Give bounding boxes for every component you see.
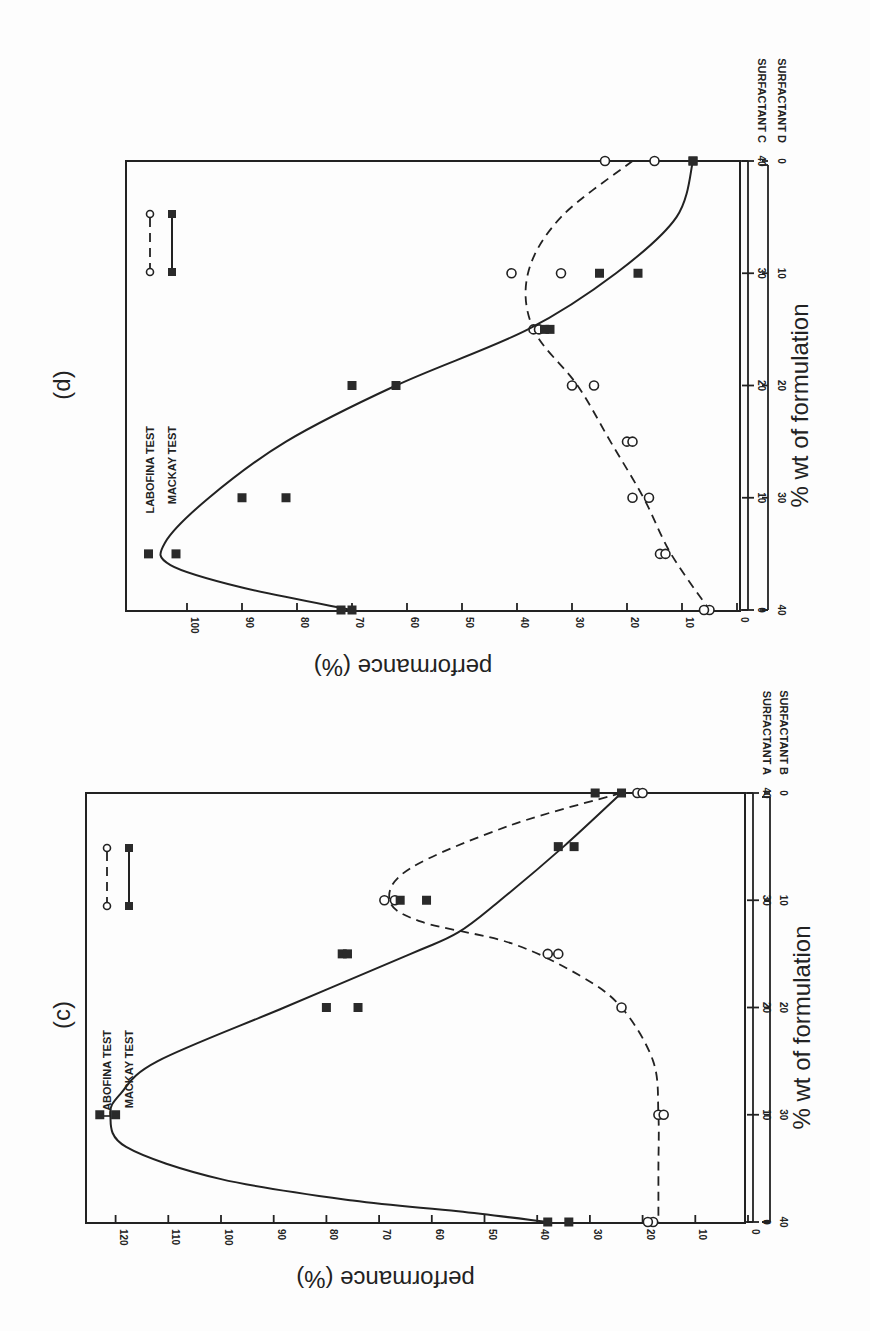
performance-tick-label: 10 xyxy=(684,617,695,629)
mackay-point xyxy=(595,269,604,278)
secondary-tick-label: 0 xyxy=(778,790,789,796)
mackay-point xyxy=(238,493,247,502)
labofina-point xyxy=(659,1110,668,1119)
open-circle-icon xyxy=(147,211,154,218)
primary-tick-label: 20 xyxy=(761,1002,772,1014)
performance-tick-label: 110 xyxy=(170,1229,181,1246)
mackay-point xyxy=(396,896,405,905)
performance-tick-label: 50 xyxy=(464,617,475,629)
primary-tick-label: 30 xyxy=(756,268,767,280)
mackay-point xyxy=(554,842,563,851)
performance-tick-label: 100 xyxy=(189,617,200,634)
filled-square-icon xyxy=(168,210,176,218)
panel-label: (c) xyxy=(48,1001,75,1029)
mackay-point xyxy=(634,269,643,278)
mackay-point xyxy=(282,493,291,502)
performance-tick-label: 70 xyxy=(354,617,365,629)
figure-page: 0102030405060708090100040103020203010400… xyxy=(0,0,870,1331)
filled-square-icon xyxy=(125,844,133,852)
labofina-point xyxy=(601,157,610,166)
figure-canvas: 0102030405060708090100040103020203010400… xyxy=(0,0,870,1331)
labofina-point xyxy=(380,896,389,905)
mackay-point xyxy=(392,381,401,390)
legend: LABOFINA TESTMACKAY TEST xyxy=(144,210,178,514)
mackay-point xyxy=(111,1110,120,1119)
filled-square-icon xyxy=(168,268,176,276)
labofina-point xyxy=(638,789,647,798)
mackay-curve xyxy=(160,161,693,610)
mackay-point xyxy=(570,842,579,851)
performance-tick-label: 80 xyxy=(328,1229,339,1241)
performance-tick-label: 60 xyxy=(434,1229,445,1241)
legend-label: MACKAY TEST xyxy=(166,426,178,505)
secondary-tick-label: 40 xyxy=(776,604,787,616)
performance-tick-label: 100 xyxy=(223,1229,234,1246)
legend-label: LABOFINA TEST xyxy=(144,426,156,514)
filled-square-icon xyxy=(125,902,133,910)
surfactant-top-label: SURFACTANT C xyxy=(756,58,768,143)
performance-tick-label: 40 xyxy=(519,617,530,629)
labofina-curve xyxy=(526,161,710,610)
labofina-point xyxy=(590,381,599,390)
plot-frame xyxy=(86,793,745,1223)
mackay-point xyxy=(591,789,600,798)
formulation-axis: 040103020203010400SURFACTANT CSURFACTANT… xyxy=(740,58,788,616)
performance-axis-title: performance (%) xyxy=(296,1266,475,1293)
formulation-axis-title: % wt of formulation xyxy=(788,925,815,1129)
mackay-point xyxy=(689,157,698,166)
mackay-point xyxy=(617,789,626,798)
labofina-point xyxy=(645,493,654,502)
performance-tick-label: 0 xyxy=(750,1229,761,1235)
formulation-axis: 040103020203010400SURFACTANT ASURFACTANT… xyxy=(745,690,790,1228)
mackay-point xyxy=(348,606,357,615)
primary-tick-label: 0 xyxy=(756,607,767,613)
labofina-point xyxy=(643,1218,652,1227)
primary-tick-label: 40 xyxy=(756,155,767,167)
labofina-point xyxy=(628,493,637,502)
formulation-axis-title: % wt of formulation xyxy=(786,303,813,507)
chart-panel-d: 0102030405060708090100040103020203010400… xyxy=(48,58,813,681)
chart-panel-c: 0102030405060708090100110120040103020203… xyxy=(48,690,815,1293)
primary-tick-label: 0 xyxy=(761,1219,772,1225)
performance-axis: 0102030405060708090100110120 xyxy=(116,1215,761,1246)
mackay-point xyxy=(95,1110,104,1119)
performance-tick-label: 0 xyxy=(739,617,750,623)
mackay-point xyxy=(144,549,153,558)
performance-tick-label: 10 xyxy=(697,1229,708,1241)
performance-axis: 0102030405060708090100 xyxy=(187,603,750,634)
secondary-tick-label: 10 xyxy=(776,268,787,280)
performance-tick-label: 20 xyxy=(645,1229,656,1241)
performance-tick-label: 20 xyxy=(629,617,640,629)
legend: LABOFINA TESTMACKAY TEST xyxy=(101,844,135,1118)
performance-tick-label: 30 xyxy=(592,1229,603,1241)
performance-tick-label: 90 xyxy=(244,617,255,629)
primary-tick-label: 40 xyxy=(761,787,772,799)
performance-tick-label: 30 xyxy=(574,617,585,629)
labofina-point xyxy=(700,606,709,615)
primary-tick-label: 10 xyxy=(756,492,767,504)
labofina-point xyxy=(661,549,670,558)
mackay-point xyxy=(564,1218,573,1227)
performance-tick-label: 40 xyxy=(539,1229,550,1241)
panel-label: (d) xyxy=(48,370,75,399)
performance-tick-label: 80 xyxy=(299,617,310,629)
performance-tick-label: 60 xyxy=(409,617,420,629)
secondary-tick-label: 10 xyxy=(778,895,789,907)
labofina-point xyxy=(650,157,659,166)
labofina-point xyxy=(557,269,566,278)
mackay-point xyxy=(337,606,346,615)
mackay-point xyxy=(422,896,431,905)
mackay-point xyxy=(546,325,555,334)
performance-tick-label: 120 xyxy=(118,1229,129,1246)
labofina-point xyxy=(617,1003,626,1012)
mackay-point xyxy=(172,549,181,558)
labofina-point xyxy=(554,949,563,958)
legend-label: MACKAY TEST xyxy=(123,1030,135,1109)
primary-tick-label: 30 xyxy=(761,895,772,907)
performance-tick-label: 50 xyxy=(487,1229,498,1241)
performance-axis-title: performance (%) xyxy=(314,654,493,681)
labofina-point xyxy=(543,949,552,958)
open-circle-icon xyxy=(104,903,111,910)
mackay-point xyxy=(343,949,352,958)
primary-tick-label: 20 xyxy=(756,380,767,392)
